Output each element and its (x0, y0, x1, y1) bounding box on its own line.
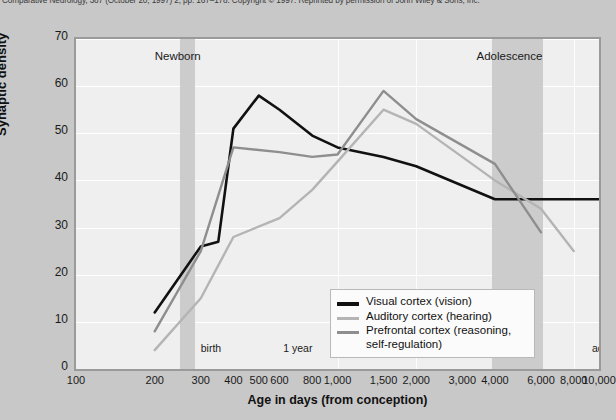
y-tick-10: 10 (6, 312, 68, 326)
y-tick-30: 30 (6, 218, 68, 232)
x-tick-600: 600 (270, 374, 288, 386)
x-tick-300: 300 (192, 374, 210, 386)
source-caption: Comparative Neurology, 387 (October 20, … (0, 0, 605, 11)
x-tick-4000: 4,000 (481, 374, 509, 386)
legend-label-auditory: Auditory cortex (hearing) (366, 310, 492, 324)
x-tick-100: 100 (67, 374, 85, 386)
x-tick-6000: 6,000 (527, 374, 555, 386)
legend-item-visual: Visual cortex (vision) (337, 295, 528, 309)
chart-figure: Synaptic density 010203040506070 Newborn… (0, 18, 605, 402)
legend-label-prefrontal: Prefrontal cortex (reasoning, self-regul… (366, 324, 511, 351)
annotation-birth: birth (201, 342, 221, 354)
x-axis-label: Age in days (from conception) (74, 393, 601, 407)
legend-label-prefrontal-line1: Prefrontal cortex (reasoning, (366, 324, 511, 336)
y-tick-40: 40 (6, 170, 68, 184)
x-tick-1000: 1,000 (324, 374, 352, 386)
annotation-newborn: Newborn (155, 50, 201, 62)
y-tick-60: 60 (6, 76, 68, 90)
source-caption-text: Comparative Neurology, 387 (October 20, … (2, 0, 480, 5)
legend-label-prefrontal-line2: self-regulation) (366, 338, 442, 350)
legend-swatch-visual (337, 302, 359, 306)
x-tick-2000: 2,000 (402, 374, 430, 386)
x-tick-400: 400 (224, 374, 242, 386)
annotation-adult: adult (592, 342, 599, 354)
plot-area: NewbornAdolescence birth1 year3 years11 … (74, 37, 601, 371)
x-tick-800: 800 (303, 374, 321, 386)
legend-label-visual: Visual cortex (vision) (366, 295, 472, 309)
y-tick-20: 20 (6, 265, 68, 279)
chart-legend: Visual cortex (vision) Auditory cortex (… (330, 289, 535, 358)
x-tick-200: 200 (146, 374, 164, 386)
x-tick-500: 500 (250, 374, 268, 386)
legend-swatch-prefrontal (337, 331, 359, 334)
annotation-1-year: 1 year (283, 342, 312, 354)
y-tick-0: 0 (6, 359, 68, 373)
y-tick-50: 50 (6, 123, 68, 137)
legend-item-auditory: Auditory cortex (hearing) (337, 310, 528, 324)
legend-swatch-auditory (337, 317, 359, 320)
x-tick-3000: 3,000 (449, 374, 477, 386)
annotation-adolescence: Adolescence (476, 50, 542, 62)
legend-item-prefrontal: Prefrontal cortex (reasoning, self-regul… (337, 324, 528, 351)
x-tick-1500: 1,500 (370, 374, 398, 386)
x-tick-10000: 10,000 (582, 374, 616, 386)
y-tick-70: 70 (6, 29, 68, 43)
